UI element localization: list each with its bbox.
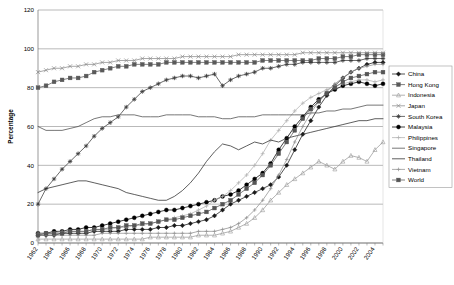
data-point	[293, 140, 297, 144]
data-point	[244, 72, 248, 76]
data-point	[124, 105, 128, 109]
data-point	[156, 225, 160, 229]
data-point	[365, 56, 369, 60]
data-point	[205, 230, 209, 234]
data-point	[108, 120, 112, 124]
data-point	[228, 78, 232, 82]
legend-marker-icon	[397, 178, 401, 182]
data-point	[84, 229, 88, 233]
data-point	[116, 226, 120, 230]
data-point	[181, 231, 185, 235]
series-line	[38, 119, 383, 201]
data-point	[140, 89, 144, 93]
legend-label: Malaysia	[408, 123, 433, 130]
data-point	[100, 224, 104, 228]
data-point	[253, 181, 257, 185]
data-point	[164, 218, 168, 222]
data-point	[229, 198, 233, 202]
data-point	[285, 163, 289, 167]
data-point	[181, 216, 185, 220]
data-point	[148, 62, 152, 66]
data-point	[373, 53, 377, 57]
legend-label: Indonesia	[408, 91, 435, 98]
data-point	[157, 231, 161, 235]
data-point	[196, 202, 200, 206]
data-point	[116, 220, 120, 224]
data-point	[341, 55, 345, 59]
series-line	[38, 72, 383, 235]
x-tick-label: 1964	[41, 245, 55, 261]
y-axis-title: Percentage	[7, 109, 15, 144]
data-point	[357, 58, 361, 62]
data-point	[36, 86, 40, 90]
x-tick-label: 1982	[186, 245, 200, 261]
data-point	[60, 231, 64, 235]
data-point	[277, 152, 281, 156]
data-point	[60, 78, 64, 82]
data-point	[164, 225, 168, 229]
data-point	[236, 74, 240, 78]
x-tick-label: 1996	[298, 245, 312, 261]
legend-label: South Korea	[408, 113, 443, 120]
data-point	[52, 231, 56, 235]
data-point	[76, 151, 80, 155]
y-tick-label: 100	[24, 45, 35, 52]
legend-label: World	[408, 176, 425, 183]
data-point	[196, 76, 200, 80]
data-point	[181, 61, 185, 65]
data-point	[44, 231, 48, 235]
data-point	[189, 214, 193, 218]
data-point	[213, 61, 217, 65]
data-point	[253, 177, 257, 181]
data-point	[373, 70, 377, 74]
legend-label: Singapore	[408, 144, 437, 151]
data-point	[156, 220, 160, 224]
data-point	[140, 214, 144, 218]
data-point	[189, 231, 193, 235]
data-point	[84, 144, 88, 148]
data-point	[197, 230, 201, 234]
data-point	[92, 70, 96, 74]
x-tick-label: 1976	[138, 245, 152, 261]
data-point	[68, 76, 72, 80]
data-point	[365, 72, 369, 76]
data-point	[268, 66, 272, 70]
data-point	[108, 66, 112, 70]
data-point	[285, 140, 289, 144]
data-point	[260, 186, 264, 190]
data-point	[132, 224, 136, 228]
data-point	[124, 224, 128, 228]
data-point	[229, 192, 233, 196]
data-point	[245, 61, 249, 65]
data-point	[132, 97, 136, 101]
data-point	[325, 92, 329, 96]
x-tick-label: 1980	[170, 245, 184, 261]
data-point	[276, 64, 280, 68]
x-tick-label: 1970	[89, 245, 103, 261]
x-tick-label: 1962	[25, 245, 39, 261]
data-point	[156, 82, 160, 86]
x-tick-label: 1974	[121, 245, 135, 261]
data-point	[108, 222, 112, 226]
data-point	[36, 202, 40, 206]
data-point	[197, 212, 201, 216]
legend-label: Hong Kong	[408, 81, 440, 88]
data-point	[381, 78, 385, 82]
data-point	[173, 231, 177, 235]
data-point	[148, 85, 152, 89]
series-hong-kong	[36, 53, 385, 90]
data-point	[100, 126, 104, 130]
data-point	[236, 198, 240, 202]
data-point	[237, 61, 241, 65]
data-point	[269, 163, 273, 167]
data-point	[252, 70, 256, 74]
data-point	[180, 223, 184, 227]
legend-marker-icon	[396, 114, 400, 118]
data-point	[285, 59, 289, 63]
data-point	[229, 226, 233, 230]
data-point	[172, 223, 176, 227]
data-point	[309, 60, 313, 64]
data-point	[221, 228, 225, 232]
data-point	[172, 76, 176, 80]
data-point	[317, 99, 321, 103]
